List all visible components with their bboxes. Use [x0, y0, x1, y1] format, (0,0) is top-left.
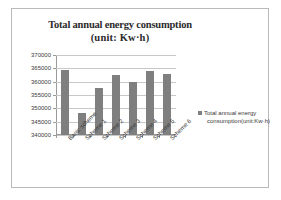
legend-swatch-icon — [198, 111, 202, 115]
y-axis-tick-label: 355000 — [31, 92, 51, 98]
chart-title: Total annual energy consumption (unit: K… — [30, 18, 210, 44]
legend-label-line-1: Total annual energy — [204, 110, 256, 116]
y-axis-tick-label: 340000 — [31, 132, 51, 138]
chart-legend: Total annual energy consumption(unit:Kw·… — [198, 109, 276, 125]
y-axis-tick-label: 370000 — [31, 52, 51, 58]
bar-slot — [56, 55, 73, 135]
legend-label: Total annual energy consumption(unit:Kw·… — [204, 109, 270, 125]
y-axis-tick-label: 365000 — [31, 65, 51, 71]
chart-title-line-1: Total annual energy consumption — [48, 19, 192, 30]
y-axis-tick-label: 360000 — [31, 79, 51, 85]
chart-frame: Total annual energy consumption (unit: K… — [11, 8, 269, 188]
bar[interactable] — [61, 70, 69, 135]
legend-item: Total annual energy consumption(unit:Kw·… — [198, 109, 276, 125]
x-axis-labels: Basic schemeScheme 1Scheme 2Scheme 3Sche… — [56, 137, 196, 189]
y-axis-tick-label: 345000 — [31, 119, 51, 125]
chart-title-line-2: (unit: Kw·h) — [30, 31, 210, 44]
y-axis-tick-label: 350000 — [31, 105, 51, 111]
legend-label-line-2: consumption(unit:Kw·h) — [204, 117, 270, 125]
